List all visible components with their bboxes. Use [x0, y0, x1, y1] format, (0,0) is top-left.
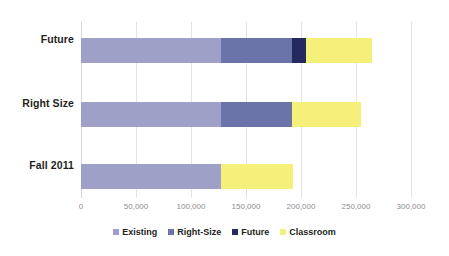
x-tick-label-50000: 50,000: [124, 202, 148, 211]
legend-label-existing: Existing: [122, 227, 157, 237]
plot-area: [81, 22, 411, 198]
x-tick-label-100000: 100,000: [177, 202, 206, 211]
bar-segment-right-size[interactable]: [221, 38, 293, 63]
legend-item-future[interactable]: Future: [232, 227, 269, 237]
y-axis-label-future: Future: [2, 33, 74, 45]
stacked-bar-chart: Future Right Size Fall 2011: [0, 0, 449, 256]
legend-swatch-icon: [113, 229, 119, 235]
legend-label-right-size: Right-Size: [177, 227, 221, 237]
bar-segment-existing[interactable]: [81, 102, 221, 127]
bar-segment-future[interactable]: [292, 38, 306, 63]
legend-item-existing[interactable]: Existing: [113, 227, 157, 237]
chart-legend: Existing Right-Size Future Classroom: [0, 227, 449, 237]
bar-segment-classroom[interactable]: [306, 38, 372, 63]
legend-label-future: Future: [241, 227, 269, 237]
bar-segment-existing[interactable]: [81, 38, 221, 63]
x-tick-label-0: 0: [79, 202, 83, 211]
legend-label-classroom: Classroom: [289, 227, 336, 237]
gridline-300000: [411, 22, 412, 198]
y-axis-category-labels: Future Right Size Fall 2011: [0, 22, 74, 198]
x-axis-tick-labels: 0 50,000 100,000 150,000 200,000 250,000…: [0, 202, 449, 218]
legend-swatch-icon: [280, 229, 286, 235]
bar-segment-classroom[interactable]: [221, 164, 294, 189]
legend-swatch-icon: [168, 229, 174, 235]
bar-row-right-size[interactable]: [81, 102, 361, 127]
legend-item-classroom[interactable]: Classroom: [280, 227, 336, 237]
x-tick-label-250000: 250,000: [342, 202, 371, 211]
y-axis-label-fall-2011: Fall 2011: [2, 159, 74, 171]
legend-swatch-icon: [232, 229, 238, 235]
x-tick-label-150000: 150,000: [232, 202, 261, 211]
x-tick-label-300000: 300,000: [397, 202, 426, 211]
bar-row-fall-2011[interactable]: [81, 164, 293, 189]
bar-segment-existing[interactable]: [81, 164, 221, 189]
y-axis-label-right-size: Right Size: [2, 97, 74, 109]
x-tick-label-200000: 200,000: [287, 202, 316, 211]
bar-segment-right-size[interactable]: [221, 102, 293, 127]
legend-item-right-size[interactable]: Right-Size: [168, 227, 221, 237]
bar-segment-classroom[interactable]: [292, 102, 361, 127]
bar-row-future[interactable]: [81, 38, 373, 63]
